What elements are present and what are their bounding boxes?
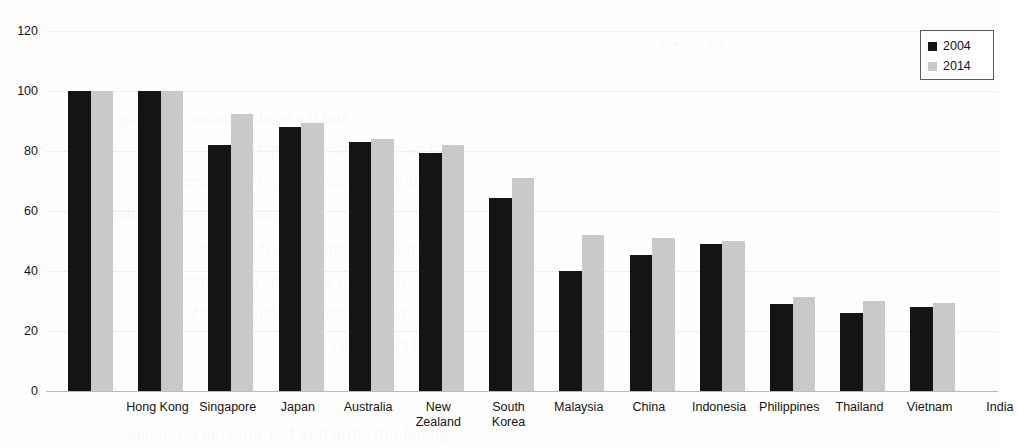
bar-south-korea-2014 (442, 145, 465, 391)
bar-new-zealand-2004 (349, 142, 372, 391)
bar-singapore-2004 (138, 91, 161, 391)
bar-malaysia-2004 (489, 198, 512, 392)
bar-china-2004 (559, 271, 582, 391)
legend-label-2014: 2014 (943, 60, 971, 73)
y-tick-label-20: 20 (0, 325, 38, 338)
legend-swatch-2014-icon (928, 62, 937, 71)
bar-japan-2004 (208, 145, 231, 391)
bar-thailand-2004 (770, 304, 793, 391)
y-tick-label-120: 120 (0, 25, 38, 38)
bar-hong-kong-2004 (68, 91, 91, 391)
legend-label-2004: 2004 (943, 40, 971, 53)
x-axis-category-labels: Hong KongSingaporeJapanAustraliaNew Zeal… (46, 396, 998, 448)
bar-australia-2014 (301, 123, 324, 392)
y-axis-tick-labels: 020406080100120 (0, 25, 42, 397)
legend-item-2014: 2014 (928, 57, 993, 75)
bar-indonesia-2014 (652, 238, 675, 391)
y-tick-label-60: 60 (0, 205, 38, 218)
plot-area (46, 25, 998, 397)
bar-hong-kong-2014 (91, 91, 114, 391)
bar-japan-2014 (231, 114, 254, 392)
bar-malaysia-2014 (512, 178, 535, 391)
bar-india-2004 (910, 307, 933, 391)
bar-india-2014 (933, 303, 956, 392)
bar-south-korea-2004 (419, 153, 442, 392)
bar-australia-2004 (279, 127, 302, 391)
bar-indonesia-2004 (630, 255, 653, 392)
bar-philippines-2004 (700, 244, 723, 391)
bar-thailand-2014 (793, 297, 816, 392)
bar-vietnam-2014 (863, 301, 886, 391)
bar-singapore-2014 (161, 91, 184, 391)
bar-new-zealand-2014 (371, 139, 394, 391)
legend-swatch-2004-icon (928, 42, 937, 51)
y-tick-label-100: 100 (0, 85, 38, 98)
bar-philippines-2014 (722, 241, 745, 391)
y-tick-label-80: 80 (0, 145, 38, 158)
x-label-india: India (937, 400, 1018, 415)
bars-layer (46, 25, 998, 397)
y-tick-label-0: 0 (0, 385, 38, 398)
chart-legend: 2004 2014 (920, 30, 994, 80)
bar-vietnam-2004 (840, 313, 863, 391)
legend-item-2004: 2004 (928, 37, 993, 55)
bar-china-2014 (582, 235, 605, 391)
y-tick-label-40: 40 (0, 265, 38, 278)
